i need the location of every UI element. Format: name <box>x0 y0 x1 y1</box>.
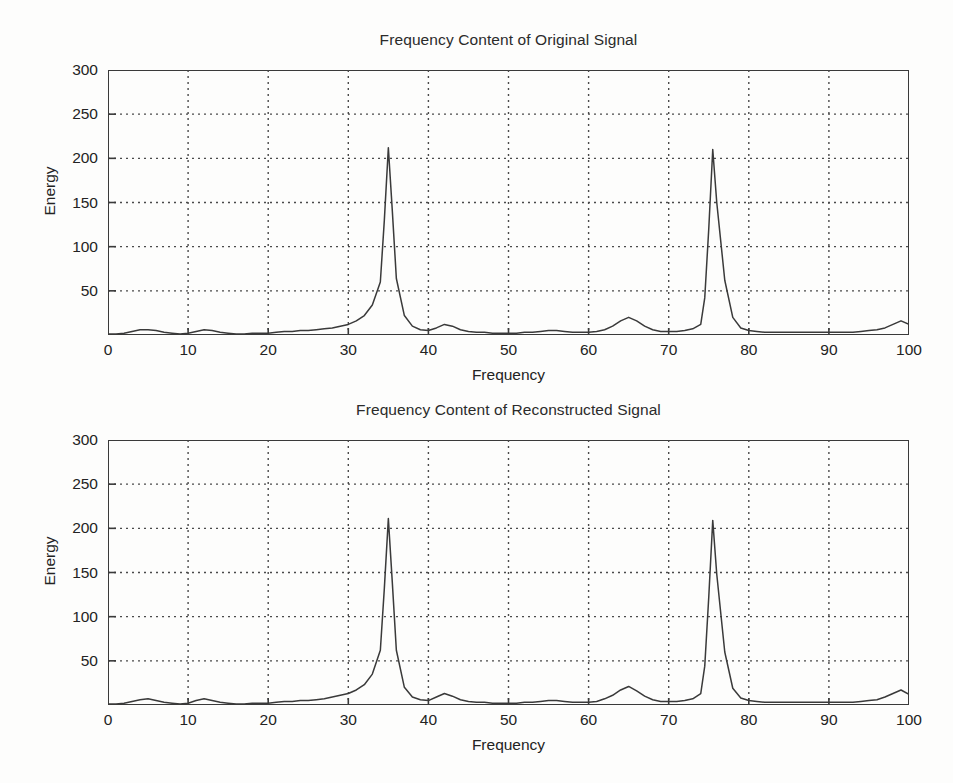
x-tick-label: 80 <box>740 341 757 359</box>
chart-reconstructed: Frequency Content of Reconstructed Signa… <box>0 370 953 783</box>
x-axis-ticks-original: 0102030405060708090100 <box>108 335 909 365</box>
x-tick-label: 60 <box>580 711 597 729</box>
data-line <box>108 148 909 334</box>
x-tick-label: 40 <box>420 341 437 359</box>
x-tick-label: 0 <box>104 711 113 729</box>
plot-area-reconstructed: 30025020015010050 0102030405060708090100… <box>108 440 909 705</box>
x-axis-label-reconstructed: Frequency <box>108 736 909 754</box>
chart-title-reconstructed: Frequency Content of Reconstructed Signa… <box>108 401 909 419</box>
chart-original: Frequency Content of Original Signal 300… <box>0 0 953 392</box>
plot-area-original: 30025020015010050 0102030405060708090100… <box>108 70 909 335</box>
x-tick-label: 40 <box>420 711 437 729</box>
plot-canvas-reconstructed <box>108 440 909 705</box>
x-tick-label: 80 <box>740 711 757 729</box>
y-tick-label: 50 <box>46 652 98 670</box>
x-tick-label: 70 <box>660 711 677 729</box>
x-tick-label: 50 <box>500 711 517 729</box>
y-tick-label: 300 <box>46 431 98 449</box>
x-tick-label: 70 <box>660 341 677 359</box>
x-tick-label: 100 <box>896 341 922 359</box>
x-tick-label: 50 <box>500 341 517 359</box>
x-tick-label: 0 <box>104 341 113 359</box>
x-tick-label: 90 <box>820 341 837 359</box>
y-tick-label: 250 <box>46 105 98 123</box>
y-tick-label: 300 <box>46 61 98 79</box>
chart-title-original: Frequency Content of Original Signal <box>108 31 909 49</box>
data-line <box>108 519 909 705</box>
x-tick-label: 30 <box>340 341 357 359</box>
x-tick-label: 20 <box>260 711 277 729</box>
figure-page: Frequency Content of Original Signal 300… <box>0 0 953 783</box>
x-tick-label: 10 <box>179 711 196 729</box>
y-axis-label-reconstructed: Energy <box>41 501 59 621</box>
x-tick-label: 10 <box>179 341 196 359</box>
y-tick-label: 250 <box>46 475 98 493</box>
x-tick-label: 60 <box>580 341 597 359</box>
x-tick-label: 100 <box>896 711 922 729</box>
y-axis-label-original: Energy <box>41 131 59 251</box>
x-tick-label: 20 <box>260 341 277 359</box>
y-tick-label: 50 <box>46 282 98 300</box>
x-axis-ticks-reconstructed: 0102030405060708090100 <box>108 705 909 735</box>
x-tick-label: 90 <box>820 711 837 729</box>
x-tick-label: 30 <box>340 711 357 729</box>
plot-canvas-original <box>108 70 909 335</box>
